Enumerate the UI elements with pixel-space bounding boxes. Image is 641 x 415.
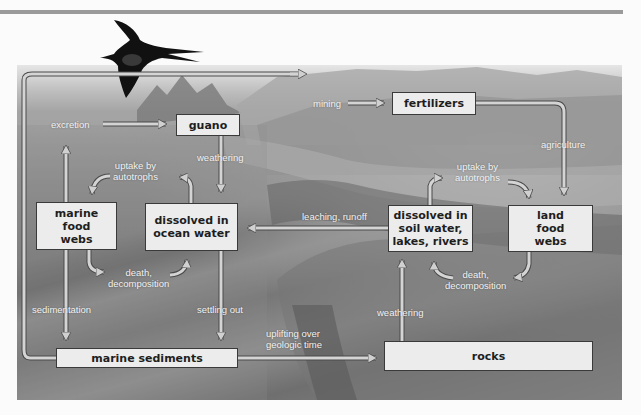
label-sedimentation: sedimentation — [32, 304, 91, 315]
node-line: soil water, — [399, 222, 463, 235]
node-guano-label: guano — [189, 119, 228, 132]
label-uplifting: uplifting over geologic time — [266, 328, 322, 350]
label-line: decomposition — [445, 280, 506, 291]
node-line: webs — [60, 233, 92, 246]
label-line: autotrophs — [113, 171, 158, 182]
label-line: geologic time — [266, 339, 322, 350]
node-line: ocean water — [153, 227, 229, 240]
label-line: death, — [445, 269, 506, 280]
label-death-marine: death, decomposition — [108, 267, 169, 289]
label-excretion: excretion — [51, 119, 90, 130]
node-rocks: rocks — [384, 341, 593, 371]
label-line: uplifting over — [266, 328, 322, 339]
label-uptake-marine: uptake by autotrophs — [113, 160, 158, 182]
node-marine-sediments-label: marine sediments — [91, 352, 202, 365]
node-land-food-webs: land food webs — [508, 205, 593, 252]
label-settling-out: settling out — [197, 304, 243, 315]
node-line: marine — [55, 207, 98, 220]
node-rocks-label: rocks — [472, 350, 505, 363]
node-line: land — [537, 209, 564, 222]
label-leaching-runoff: leaching, runoff — [302, 211, 367, 222]
node-line: food — [63, 220, 91, 233]
node-fertilizers: fertilizers — [392, 92, 476, 115]
node-line: lakes, rivers — [392, 235, 468, 248]
node-marine-sediments: marine sediments — [56, 348, 238, 368]
label-mining: mining — [313, 98, 341, 109]
node-dissolved-soil: dissolved in soil water, lakes, rivers — [388, 205, 473, 252]
node-guano: guano — [176, 114, 240, 136]
node-line: dissolved in — [393, 209, 467, 222]
label-line: uptake by — [113, 160, 158, 171]
label-death-land: death, decomposition — [445, 269, 506, 291]
node-fertilizers-label: fertilizers — [404, 97, 464, 110]
label-agriculture: agriculture — [541, 139, 585, 150]
label-line: uptake by — [455, 161, 500, 172]
label-line: death, — [108, 267, 169, 278]
label-line: decomposition — [108, 278, 169, 289]
label-uptake-land: uptake by autotrophs — [455, 161, 500, 183]
label-weathering-guano: weathering — [197, 152, 243, 163]
label-weathering-rocks: weathering — [377, 307, 423, 318]
node-line: webs — [534, 235, 566, 248]
node-marine-food-webs: marine food webs — [36, 202, 117, 250]
node-dissolved-ocean: dissolved in ocean water — [145, 203, 238, 251]
node-line: food — [537, 222, 565, 235]
label-line: autotrophs — [455, 172, 500, 183]
node-line: dissolved in — [154, 214, 228, 227]
